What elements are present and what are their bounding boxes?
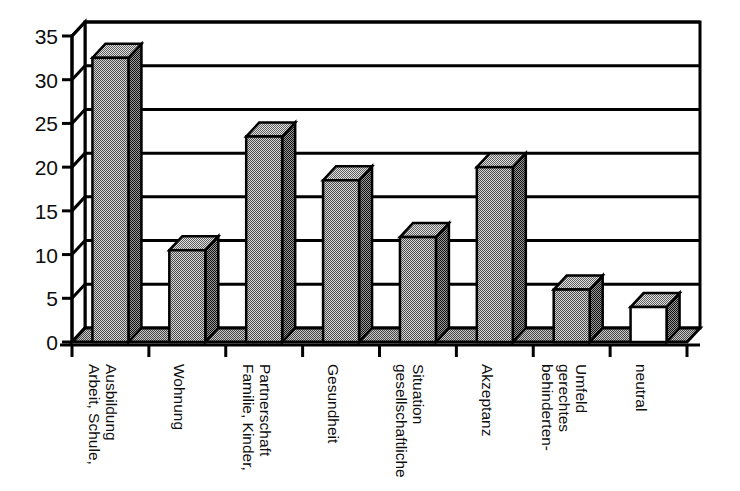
x-axis-label: Arbeit, Schule, bbox=[86, 364, 103, 465]
bar-front-face bbox=[400, 237, 436, 342]
y-tick-label: 5 bbox=[46, 287, 58, 310]
plot-floor bbox=[72, 328, 700, 342]
x-axis-label: neutral bbox=[633, 364, 650, 411]
bar bbox=[169, 236, 218, 342]
bar-side-face bbox=[282, 123, 295, 342]
x-axis-label: Ausbildung bbox=[103, 364, 120, 441]
x-axis-label: Wohnung bbox=[171, 364, 188, 430]
plot-frame bbox=[72, 22, 700, 342]
x-axis-label: gerechtes bbox=[556, 364, 573, 432]
bar-front-face bbox=[92, 58, 128, 342]
y-tick-label: 30 bbox=[35, 69, 58, 92]
y-tick-label: 0 bbox=[46, 331, 58, 354]
bar-side-face bbox=[359, 166, 372, 342]
y-tick-label: 15 bbox=[35, 200, 58, 223]
bar-front-face bbox=[554, 290, 590, 342]
x-axis-label: Akzeptanz bbox=[479, 364, 496, 436]
bar bbox=[400, 223, 449, 342]
x-axis-label: Familie, Kinder, bbox=[240, 364, 257, 471]
bar bbox=[246, 123, 295, 342]
x-axis-label: Situation bbox=[410, 364, 427, 424]
bar-chart: 05101520253035 Arbeit, Schule,Ausbildung… bbox=[0, 0, 740, 491]
y-tick-label: 25 bbox=[35, 112, 58, 135]
y-tick-label: 20 bbox=[35, 156, 58, 179]
bar bbox=[92, 44, 141, 342]
bar bbox=[631, 293, 680, 342]
x-axis-label: gesellschaftliche bbox=[393, 364, 410, 478]
bar-side-face bbox=[128, 44, 141, 342]
bar-front-face bbox=[477, 167, 513, 342]
x-axis-label: Umfeld bbox=[573, 364, 590, 413]
bar-side-face bbox=[513, 153, 526, 342]
x-axis-label: Gesundheit bbox=[325, 364, 342, 444]
bar bbox=[323, 166, 372, 342]
bar-front-face bbox=[246, 137, 282, 342]
bar-side-face bbox=[436, 223, 449, 342]
y-tick-label: 10 bbox=[35, 244, 58, 267]
bar-front-face bbox=[169, 250, 205, 342]
bar-front-face bbox=[631, 307, 667, 342]
chart-canvas: 05101520253035 Arbeit, Schule,Ausbildung… bbox=[0, 0, 740, 491]
x-axis-label: Partnerschaft bbox=[257, 364, 274, 457]
bar bbox=[554, 276, 603, 342]
y-tick-label: 35 bbox=[35, 25, 58, 48]
bar-side-face bbox=[205, 236, 218, 342]
bar-front-face bbox=[323, 180, 359, 342]
x-axis-label: behinderten- bbox=[539, 364, 556, 451]
bar bbox=[477, 153, 526, 342]
